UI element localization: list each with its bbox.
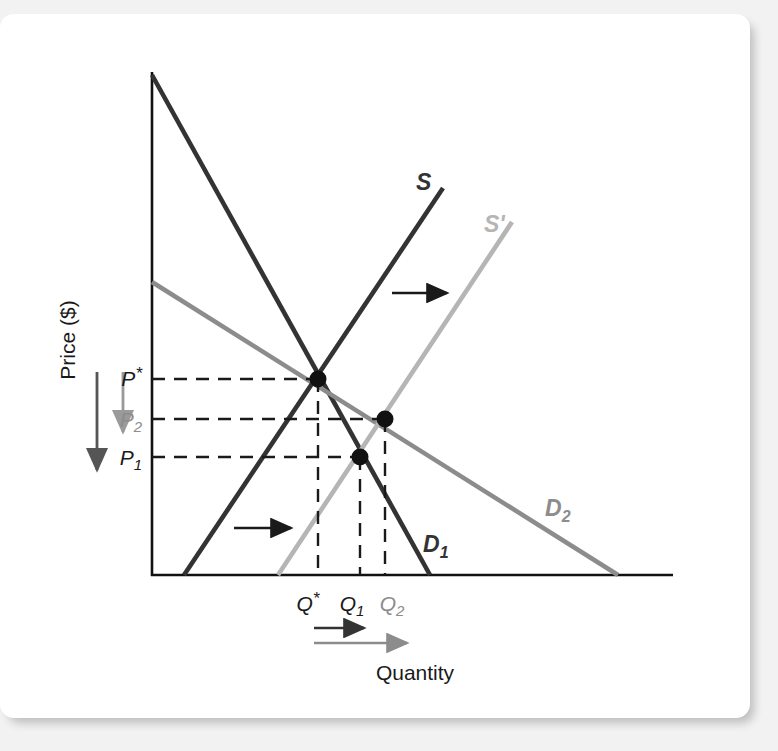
- price-tick-p-1: P1: [120, 446, 142, 473]
- quantity-tick-labels: Q* Q1 Q2: [297, 589, 405, 619]
- equilibrium-point-original: [310, 371, 327, 388]
- x-axis-label: Quantity: [376, 661, 455, 684]
- supply-demand-chart: P* P2 P1 Q* Q1 Q2 S S' D: [0, 0, 778, 751]
- quantity-rise-arrows: [314, 628, 407, 643]
- curve-label-demand-original: D1: [423, 531, 449, 561]
- chart-axes: [151, 72, 673, 576]
- price-tick-p-star: P*: [121, 364, 143, 390]
- curve-supply-shifted: [278, 222, 512, 575]
- quantity-tick-q-star: Q*: [297, 589, 321, 615]
- quantity-tick-q-2: Q2: [380, 592, 405, 619]
- price-tick-p-2: P2: [120, 408, 143, 435]
- curve-labels: S S' D1 D2: [416, 169, 571, 561]
- curve-label-demand-shifted: D2: [545, 495, 571, 525]
- curve-label-supply-original: S: [416, 169, 432, 195]
- curve-demand-original: [152, 75, 430, 575]
- curve-label-supply-shifted: S': [484, 211, 506, 237]
- price-tick-labels: P* P2 P1: [120, 364, 144, 473]
- quantity-tick-q-1: Q1: [340, 592, 365, 619]
- y-axis-label: Price ($): [56, 300, 79, 379]
- figure-page: P* P2 P1 Q* Q1 Q2 S S' D: [0, 0, 778, 751]
- equilibrium-point-supply-shift: [352, 449, 369, 466]
- equilibrium-point-demand-shift: [377, 411, 394, 428]
